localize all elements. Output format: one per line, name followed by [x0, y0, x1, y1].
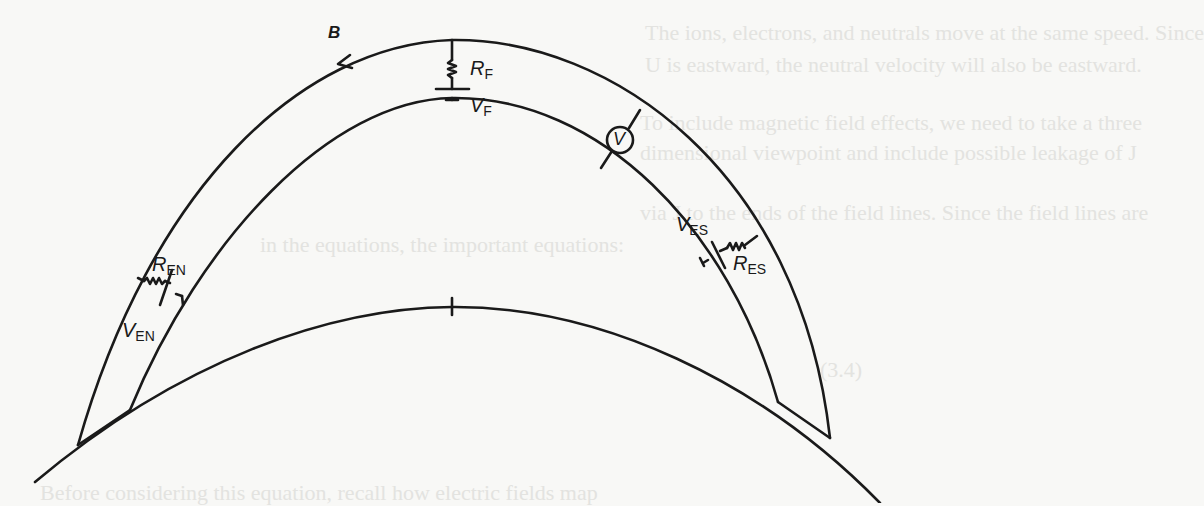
- label-vf: VF: [470, 95, 492, 118]
- resistor-res-icon: [727, 243, 745, 250]
- label-res: RES: [733, 253, 766, 276]
- resistor-rf-icon: [448, 60, 456, 78]
- label-voltmeter: V: [613, 130, 625, 148]
- label-ves: VES: [676, 214, 708, 237]
- ionosphere-line: [35, 307, 880, 503]
- label-rf: RF: [470, 58, 493, 81]
- resistor-ren-icon: [144, 278, 165, 284]
- battery-ves-short: [700, 258, 704, 266]
- field-label-b: B: [328, 24, 340, 41]
- label-ren: REN: [152, 254, 186, 277]
- middle-field-line: [130, 98, 778, 410]
- label-ven: VEN: [122, 320, 155, 343]
- arrow-icon: [338, 55, 352, 68]
